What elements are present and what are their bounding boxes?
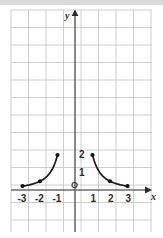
xtick-label-pos1: 1 — [91, 194, 97, 204]
origin-label: O — [71, 181, 78, 190]
xtick-label-pos2: 2 — [108, 194, 114, 204]
y-axis-letter: y — [65, 11, 69, 21]
xtick-label-neg3: -3 — [18, 194, 27, 204]
xtick-label-neg2: -2 — [35, 194, 44, 204]
xtick-label-neg1: -1 — [53, 194, 62, 204]
x-axis-letter: x — [151, 192, 156, 202]
xtick-label-pos3: 3 — [126, 194, 132, 204]
ytick-label-2: 2 — [79, 150, 85, 160]
graph-figure: -3 -2 -1 1 2 3 1 2 O x y — [0, 0, 163, 238]
ytick-label-1: 1 — [79, 168, 85, 178]
